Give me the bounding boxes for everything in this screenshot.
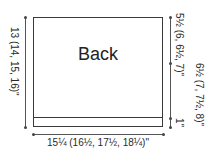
hem-label: 1" bbox=[174, 118, 185, 127]
length-tick-bottom bbox=[24, 126, 27, 129]
right-tick-hem bbox=[169, 117, 172, 120]
length-label: 13 (14, 15, 16)" bbox=[9, 27, 20, 96]
piece-title: Back bbox=[33, 44, 163, 65]
lower-section-label: 6½ (7, 7½, 8)" bbox=[194, 63, 205, 126]
width-label: 15¼ (16½, 17½, 18¼)" bbox=[33, 137, 163, 148]
length-dimension-line bbox=[25, 17, 26, 127]
upper-section-label: 5½ (6, 6½, 7)" bbox=[174, 13, 185, 76]
right-tick-top bbox=[169, 16, 172, 19]
width-tick-left bbox=[32, 133, 35, 136]
right-tick-bottom bbox=[169, 126, 172, 129]
length-tick-top bbox=[24, 16, 27, 19]
hem-line bbox=[33, 117, 163, 118]
width-tick-right bbox=[162, 133, 165, 136]
back-piece-outline bbox=[33, 17, 163, 127]
right-tick-mid bbox=[169, 62, 172, 65]
right-dimension-line bbox=[170, 17, 171, 127]
width-dimension-line bbox=[33, 134, 163, 135]
